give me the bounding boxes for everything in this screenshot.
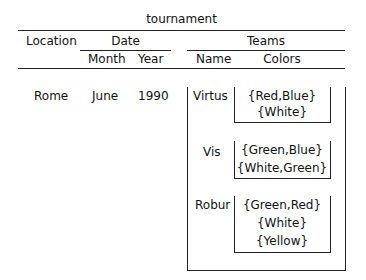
color-set: {White} bbox=[234, 216, 330, 230]
colors-box-right bbox=[330, 141, 331, 178]
team-name: Robur bbox=[195, 198, 230, 212]
header-bottom-rule bbox=[18, 68, 345, 69]
teams-box-bottom bbox=[187, 270, 346, 271]
teams-box-right bbox=[345, 87, 346, 270]
colors-box-right bbox=[330, 87, 331, 122]
team-name: Virtus bbox=[193, 89, 228, 103]
teams-box-left bbox=[187, 87, 188, 270]
colors-box-right bbox=[330, 196, 331, 252]
color-set: {Red,Blue} bbox=[234, 89, 330, 103]
teams-rule bbox=[187, 50, 345, 51]
header-colors: Colors bbox=[234, 52, 330, 66]
header-date: Date bbox=[80, 34, 171, 48]
color-set: {Yellow} bbox=[234, 234, 330, 248]
header-name: Name bbox=[196, 52, 231, 66]
colors-box-bottom bbox=[234, 122, 331, 123]
header-month: Month bbox=[88, 52, 126, 66]
color-set: {White,Green} bbox=[234, 161, 330, 175]
team-name: Vis bbox=[203, 145, 221, 159]
color-set: {Green,Red} bbox=[234, 198, 330, 212]
date-rule bbox=[80, 50, 171, 51]
colors-box-bottom bbox=[234, 178, 331, 179]
cell-year: 1990 bbox=[138, 89, 169, 103]
header-teams: Teams bbox=[187, 34, 345, 48]
colors-box-bottom bbox=[234, 252, 331, 253]
cell-month: June bbox=[92, 89, 118, 103]
color-set: {White} bbox=[234, 105, 330, 119]
top-rule bbox=[18, 30, 345, 31]
color-set: {Green,Blue} bbox=[234, 143, 330, 157]
header-location: Location bbox=[26, 34, 77, 48]
table-title: tournament bbox=[18, 12, 345, 26]
header-year: Year bbox=[138, 52, 163, 66]
cell-location: Rome bbox=[34, 89, 68, 103]
